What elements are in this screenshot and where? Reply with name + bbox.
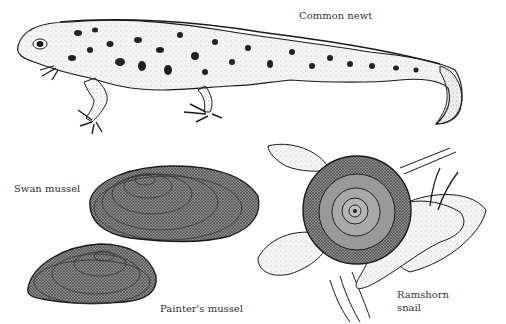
painters-mussel-drawing — [28, 244, 157, 304]
common-newt-label: Common newt — [299, 10, 372, 22]
swan-mussel-label: Swan mussel — [14, 183, 80, 195]
ramshorn-snail-label-line2: snail — [397, 302, 421, 314]
ramshorn-snail-drawing — [258, 144, 486, 322]
ramshorn-snail-label-line1: Ramshorn — [397, 289, 449, 301]
drawing — [0, 0, 506, 324]
swan-mussel-drawing — [90, 166, 259, 242]
common-newt-drawing — [18, 20, 462, 134]
illustration-canvas: Common newt Swan mussel Painter's mussel… — [0, 0, 506, 324]
painters-mussel-label: Painter's mussel — [160, 303, 243, 315]
